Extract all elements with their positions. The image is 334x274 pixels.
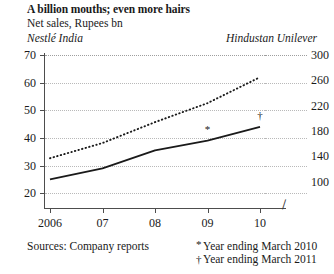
left-axis-tick-label: 40 — [0, 132, 36, 144]
x-axis-tick — [208, 208, 209, 213]
right-axis-tick-label: 260 — [311, 74, 334, 86]
gridline-extension — [265, 138, 307, 139]
x-axis-tick-label: 08 — [149, 216, 161, 231]
x-axis-tick-label: 09 — [202, 216, 214, 231]
left-axis-tick-label: 60 — [0, 77, 36, 89]
annotation-marker: † — [257, 109, 263, 120]
left-axis-tick-label: 50 — [0, 104, 36, 116]
footnote-marker: † — [196, 253, 203, 266]
x-axis-tick — [155, 208, 156, 213]
gridline-extension — [265, 83, 307, 84]
left-axis-series-label: Nestlé India — [27, 32, 83, 44]
right-axis-tick-label: 180 — [311, 125, 334, 137]
right-axis-tick-label: 100 — [311, 176, 334, 188]
chart-subtitle: Net sales, Rupees bn — [27, 17, 123, 29]
hindustan-unilever-line — [50, 77, 260, 158]
footnote-marker: * — [196, 238, 203, 251]
annotation-marker: * — [205, 123, 211, 134]
gridline-extension — [265, 110, 307, 111]
footnote-row: *Year ending March 2010 — [196, 238, 317, 253]
x-axis-tick — [50, 208, 51, 213]
plot-area: 203040506070 100140180220260300 20060708… — [45, 55, 265, 207]
sources-note: Sources: Company reports — [27, 240, 149, 252]
x-axis-tick-label: 2006 — [38, 216, 62, 231]
gridline-extension — [265, 166, 307, 167]
bottom-axis-line — [44, 208, 286, 209]
right-axis-tick-label: 300 — [311, 49, 334, 61]
axis-break-icon: ∕∕ — [281, 197, 286, 212]
footnote-row: †Year ending March 2011 — [196, 253, 317, 266]
left-axis-tick-label: 30 — [0, 160, 36, 172]
right-axis-tick-label: 220 — [311, 100, 334, 112]
gridline-extension — [265, 193, 307, 194]
right-axis-series-label: Hindustan Unilever — [226, 32, 317, 44]
gridline-extension — [265, 55, 307, 56]
footnotes: *Year ending March 2010†Year ending Marc… — [196, 238, 317, 266]
chart-title: A billion mouths; even more hairs — [27, 3, 190, 15]
x-axis-tick-label: 07 — [97, 216, 109, 231]
left-axis-tick-label: 70 — [0, 49, 36, 61]
nestle-india-line — [50, 127, 260, 180]
right-axis-tick-label: 140 — [311, 150, 334, 162]
x-axis-tick — [260, 208, 261, 213]
left-axis-tick-label: 20 — [0, 187, 36, 199]
x-axis-tick — [103, 208, 104, 213]
x-axis-tick-label: 10 — [254, 216, 266, 231]
series-lines — [45, 55, 265, 207]
footnote-text: Year ending March 2010 — [203, 240, 317, 252]
footnote-text: Year ending March 2011 — [203, 253, 317, 265]
